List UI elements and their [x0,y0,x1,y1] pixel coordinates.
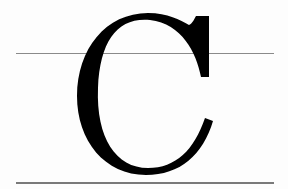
letter-diagram: C [0,0,288,189]
letter-c-glyph [0,0,288,189]
